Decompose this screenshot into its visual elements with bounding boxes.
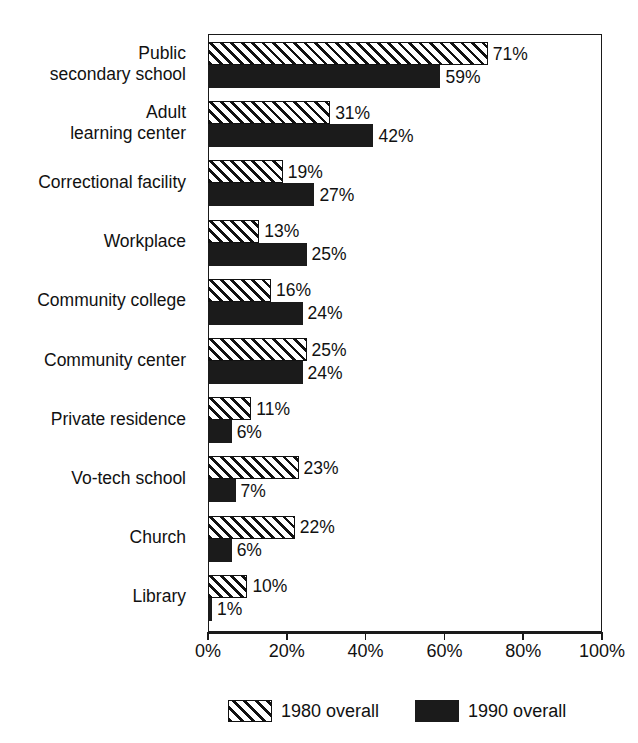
bar-value-label: 7% (241, 483, 266, 501)
bar-value-label: 1% (217, 601, 242, 619)
bar-value-label: 19% (288, 164, 323, 182)
x-axis-tick-label: 40% (348, 642, 384, 660)
bar-1990 (208, 65, 440, 88)
bar-1980 (208, 279, 271, 302)
bar-1990 (208, 183, 314, 206)
bar-1980 (208, 397, 251, 420)
x-axis-tick-label: 80% (505, 642, 541, 660)
bar-value-label: 22% (300, 519, 335, 537)
x-axis-tick (444, 632, 446, 640)
bar-value-label: 27% (319, 187, 354, 205)
bar-1980 (208, 456, 299, 479)
legend-label: 1990 overall (468, 702, 566, 720)
bar-value-label: 24% (308, 365, 343, 383)
category-label: Adult learning center (0, 102, 198, 144)
category-label: Public secondary school (0, 43, 198, 85)
category-label: Community college (0, 290, 198, 311)
legend-entry: 1980 overall (228, 700, 379, 722)
x-axis-tick (365, 632, 367, 640)
bar-value-label: 25% (312, 246, 347, 264)
x-axis-tick (207, 632, 209, 640)
legend-entry: 1990 overall (415, 700, 566, 722)
legend-swatch-solid (415, 700, 459, 722)
bar-value-label: 13% (264, 223, 299, 241)
bar-1990 (208, 243, 307, 266)
bar-value-label: 23% (304, 460, 339, 478)
bar-1990 (208, 598, 212, 621)
bar-value-label: 10% (252, 578, 287, 596)
chart-legend: 1980 overall1990 overall (228, 700, 566, 722)
bar-1980 (208, 160, 283, 183)
bar-1990 (208, 302, 303, 325)
bar-1990 (208, 420, 232, 443)
x-axis-tick-label: 20% (269, 642, 305, 660)
x-axis-line (208, 632, 602, 634)
category-label: Church (0, 527, 198, 548)
bar-1980 (208, 338, 307, 361)
x-axis-tick (286, 632, 288, 640)
category-label: Private residence (0, 409, 198, 430)
x-axis-tick-label: 60% (426, 642, 462, 660)
bar-1990 (208, 361, 303, 384)
bar-1980 (208, 101, 330, 124)
bar-1980 (208, 42, 488, 65)
x-axis-tick (522, 632, 524, 640)
category-label: Correctional facility (0, 172, 198, 193)
bar-value-label: 24% (308, 305, 343, 323)
bar-value-label: 11% (256, 401, 290, 419)
bar-value-label: 25% (312, 342, 347, 360)
x-axis-tick (601, 632, 603, 640)
bar-1980 (208, 220, 259, 243)
bar-value-label: 59% (445, 69, 480, 87)
category-label: Library (0, 586, 198, 607)
category-label: Workplace (0, 231, 198, 252)
legend-label: 1980 overall (281, 702, 379, 720)
bar-1990 (208, 539, 232, 562)
bar-value-label: 42% (378, 128, 413, 146)
bar-1990 (208, 124, 373, 147)
x-axis-tick-label: 0% (195, 642, 221, 660)
bar-value-label: 6% (237, 542, 262, 560)
category-axis-labels: Public secondary schoolAdult learning ce… (0, 34, 198, 632)
bar-1980 (208, 575, 247, 598)
bar-1980 (208, 516, 295, 539)
cropped-title-remnant (0, 0, 638, 8)
x-axis-tick-label: 100% (579, 642, 625, 660)
bar-value-label: 16% (276, 282, 311, 300)
bar-value-label: 31% (335, 105, 370, 123)
bar-1990 (208, 479, 236, 502)
bar-value-label: 6% (237, 424, 262, 442)
bars-layer: 71%59%31%42%19%27%13%25%16%24%25%24%11%6… (208, 34, 602, 632)
bar-value-label: 71% (493, 46, 528, 64)
category-label: Vo-tech school (0, 468, 198, 489)
legend-swatch-hatched (228, 700, 272, 722)
category-label: Community center (0, 350, 198, 371)
